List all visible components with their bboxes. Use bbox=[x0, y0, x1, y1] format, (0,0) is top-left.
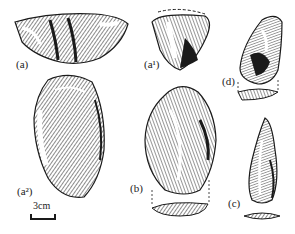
label-a: (a) bbox=[16, 58, 28, 70]
label-c: (c) bbox=[228, 197, 240, 209]
label-d: (d) bbox=[222, 75, 235, 87]
artifact-a2 bbox=[34, 75, 104, 197]
label-b: (b) bbox=[130, 182, 143, 194]
artifact-b bbox=[145, 87, 216, 216]
illustration-canvas bbox=[0, 0, 295, 234]
artifact-d bbox=[238, 16, 282, 100]
stone-tool-figure: (a) (a¹) (d) (a²) (b) (c) 3cm bbox=[0, 0, 295, 234]
scale-bar bbox=[30, 214, 56, 220]
artifact-c bbox=[244, 118, 280, 219]
scale-bar-label: 3cm bbox=[33, 200, 50, 211]
label-a1: (a¹) bbox=[144, 58, 160, 70]
artifact-a bbox=[15, 14, 128, 64]
artifact-a1 bbox=[152, 9, 210, 70]
label-a2: (a²) bbox=[17, 185, 33, 197]
